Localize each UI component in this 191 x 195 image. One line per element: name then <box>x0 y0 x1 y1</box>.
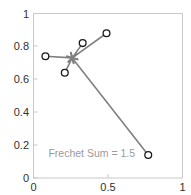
y-tick-label-2: 0.4 <box>14 106 29 118</box>
x-tick-label-0: 0 <box>30 181 36 193</box>
connection-lines <box>45 33 148 155</box>
scatter-plot: 0 0.5 1 0 0.2 0.4 0.6 0.8 1 Frechet Sum … <box>0 0 191 195</box>
x-tick-label-1: 0.5 <box>100 181 115 193</box>
x-tick-label-2: 1 <box>179 181 185 193</box>
connection-line <box>72 58 148 155</box>
data-point <box>145 152 152 159</box>
y-tick-label-4: 0.8 <box>14 40 29 52</box>
data-point <box>42 53 49 60</box>
y-tick-label-1: 0.2 <box>14 139 29 151</box>
connection-line <box>72 33 106 58</box>
frechet-sum-annotation: Frechet Sum = 1.5 <box>48 147 135 159</box>
data-point <box>103 30 110 37</box>
y-tick-marks <box>34 14 38 179</box>
y-tick-label-5: 1 <box>23 8 29 20</box>
chart-figure: 0 0.5 1 0 0.2 0.4 0.6 0.8 1 Frechet Sum … <box>0 0 191 195</box>
data-point <box>61 69 68 76</box>
x-tick-marks <box>34 174 183 178</box>
y-tick-label-0: 0 <box>23 172 29 184</box>
data-point <box>79 40 86 47</box>
y-tick-label-3: 0.6 <box>14 73 29 85</box>
